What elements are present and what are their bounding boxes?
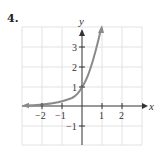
x-axis-arrow-icon [142,103,148,109]
x-tick-label: 1 [99,110,104,121]
y-tick-label: 2 [72,62,77,73]
y-tick-label: 1 [72,82,77,93]
point-0-1 [80,85,83,88]
curve-top-arrow-icon [98,25,104,33]
x-tick-label: 2 [119,110,124,121]
point-neg2 [40,103,43,106]
axes [22,36,142,145]
x-axis-label: x [148,100,154,112]
exponential-graph: −2 −1 1 2 3 2 1 −1 x y [0,0,161,156]
y-tick-label: −1 [66,121,77,132]
y-axis-arrow-icon [79,29,85,36]
x-tick-label: −2 [35,110,46,121]
x-tick-label: −1 [55,110,66,121]
y-axis-label: y [78,15,84,27]
y-tick-label: 3 [72,42,77,53]
curve-left-arrow-icon [22,103,29,108]
